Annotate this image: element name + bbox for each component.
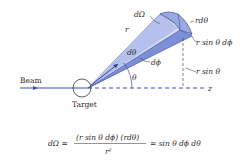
theta-label: θ xyxy=(132,73,137,82)
d-phi-label: dϕ xyxy=(151,58,161,67)
formula-rhs: = sin θ dϕ dθ xyxy=(150,139,201,148)
formula-numerator: (r sin θ dϕ) (rdθ) xyxy=(76,133,139,142)
d-theta-label: dθ xyxy=(127,48,137,57)
z-axis-label: z xyxy=(207,84,212,93)
formula-denominator: r² xyxy=(105,147,112,156)
r-d-theta-label: rdθ xyxy=(195,16,208,25)
beam-arrow-icon xyxy=(33,86,38,90)
r-sin-theta-label: r sin θ xyxy=(196,67,220,76)
r-label: r xyxy=(125,25,129,34)
formula-lhs: dΩ = xyxy=(48,139,68,148)
target-label: Target xyxy=(72,100,97,109)
beam-label: Beam xyxy=(20,76,42,85)
solid-angle-diagram: Beam Target z θ r dΩ dθ dϕ rdθ r sin θ d… xyxy=(0,0,248,130)
r-sin-theta-d-phi-label: r sin θ dϕ xyxy=(196,38,232,47)
solid-angle-formula: dΩ = (r sin θ dϕ) (rdθ) r² = sin θ dϕ dθ xyxy=(0,130,248,160)
d-omega-label: dΩ xyxy=(134,10,145,19)
